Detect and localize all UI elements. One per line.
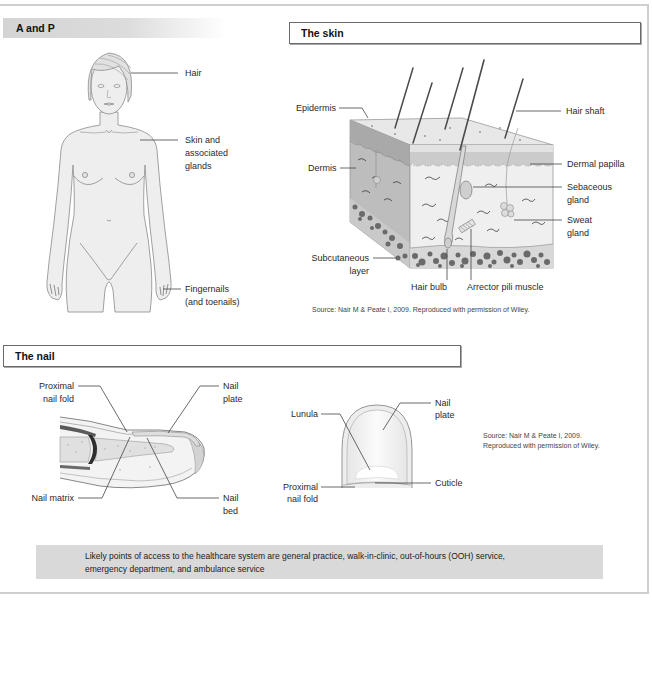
label-sweat-gland: Sweat gland	[567, 214, 592, 240]
label-nail-plate-front: Nail plate	[435, 397, 455, 421]
label-hair-bulb: Hair bulb	[411, 281, 447, 294]
label-line: Nail	[223, 492, 239, 505]
label-line: Proximal	[258, 481, 318, 493]
note-line: Likely points of access to the healthcar…	[85, 550, 505, 563]
label-subcutaneous-layer: Subcutaneous layer	[290, 252, 369, 278]
human-figure-illustration	[47, 53, 171, 312]
access-points-note-box: Likely points of access to the healthcar…	[36, 545, 603, 579]
label-line: plate	[223, 393, 243, 406]
label-cuticle: Cuticle	[435, 477, 463, 490]
label-line: layer	[290, 265, 369, 278]
label-line: Sebaceous	[567, 181, 612, 194]
label-nail-matrix: Nail matrix	[4, 492, 74, 505]
label-skin-and-glands: Skin and associated glands	[185, 134, 228, 173]
nail-source-credit: Source: Nair M & Peate I, 2009. Reproduc…	[483, 431, 600, 451]
label-dermal-papilla: Dermal papilla	[567, 158, 625, 171]
label-proximal-nail-fold-front: Proximal nail fold	[258, 481, 318, 505]
label-dermis: Dermis	[308, 162, 337, 175]
label-hair-shaft: Hair shaft	[566, 105, 605, 118]
label-line: Nail	[223, 380, 243, 393]
label-nail-bed: Nail bed	[223, 492, 239, 518]
skin-cross-section-illustration	[350, 60, 553, 268]
label-arrector-pili-muscle: Arrector pili muscle	[467, 281, 544, 294]
label-line: nail fold	[258, 493, 318, 505]
label-line: associated	[185, 147, 228, 160]
label-line: bed	[223, 505, 239, 518]
label-line: Skin and	[185, 134, 228, 147]
label-line: Subcutaneous	[290, 252, 369, 265]
label-line: Fingernails	[185, 283, 240, 296]
source-line: Reproduced with permission of Wiley.	[483, 441, 600, 451]
label-line: glands	[185, 160, 228, 173]
label-line: Nail	[435, 397, 455, 409]
label-hair: Hair	[185, 67, 202, 80]
label-line: Sweat	[567, 214, 592, 227]
label-proximal-nail-fold-side: Proximal nail fold	[14, 380, 74, 406]
label-line: gland	[567, 194, 612, 207]
label-line: nail fold	[14, 393, 74, 406]
label-sebaceous-gland: Sebaceous gland	[567, 181, 612, 207]
label-line: (and toenails)	[185, 296, 240, 309]
label-lunula: Lunula	[270, 408, 318, 421]
label-line: plate	[435, 409, 455, 421]
label-line: Proximal	[14, 380, 74, 393]
label-epidermis: Epidermis	[296, 102, 336, 115]
nail-front-view-illustration	[342, 405, 412, 488]
label-nail-plate-side: Nail plate	[223, 380, 243, 406]
skin-source-credit: Source: Nair M & Peate I, 2009. Reproduc…	[312, 305, 529, 315]
access-points-note-text: Likely points of access to the healthcar…	[85, 550, 505, 576]
note-line: emergency department, and ambulance serv…	[85, 563, 505, 576]
nail-side-view-illustration	[60, 417, 204, 488]
label-line: gland	[567, 227, 592, 240]
label-fingernails: Fingernails (and toenails)	[185, 283, 240, 309]
source-line: Source: Nair M & Peate I, 2009.	[483, 431, 600, 441]
